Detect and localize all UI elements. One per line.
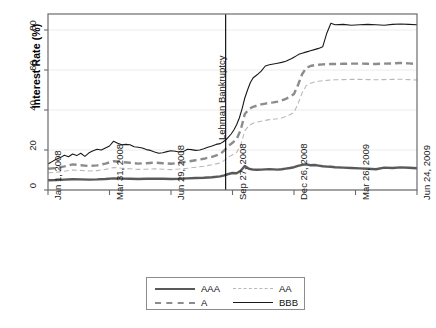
- lehman-bankruptcy-annotation: Lehman Bankruptcy: [216, 56, 227, 141]
- x-tick-label-2: Jun 29, 2008: [175, 145, 186, 200]
- legend-item-aaa: AAA: [155, 283, 220, 295]
- legend-item-aa: AA: [233, 283, 292, 295]
- chart-figure: Interest Rate (%) 80 60 40 20 0 Lehman B…: [0, 0, 436, 328]
- legend-swatch-aaa: [155, 284, 195, 294]
- legend-swatch-bbb: [233, 298, 273, 308]
- legend-label-aaa: AAA: [201, 284, 220, 294]
- legend-label-aa: AA: [279, 284, 292, 294]
- legend-swatch-a: [155, 298, 195, 308]
- legend-item-a: A: [155, 297, 207, 309]
- x-tick-label-3: Sep 27, 2008: [237, 143, 248, 200]
- x-tick-label-4: Dec 26, 2008: [298, 143, 309, 200]
- x-tick-label-5: Mar 26, 2009: [360, 144, 371, 200]
- legend-swatch-aa: [233, 284, 273, 294]
- legend-label-a: A: [201, 298, 207, 308]
- x-tick-label-1: Mar 31, 2008: [114, 144, 125, 200]
- chart-legend: AAA A AA BBB: [146, 277, 305, 310]
- legend-label-bbb: BBB: [279, 298, 298, 308]
- x-tick-label-0: Jan 1, 2008: [52, 150, 63, 200]
- legend-item-bbb: BBB: [233, 297, 298, 309]
- x-tick-label-6: Jun 24, 2009: [421, 145, 432, 200]
